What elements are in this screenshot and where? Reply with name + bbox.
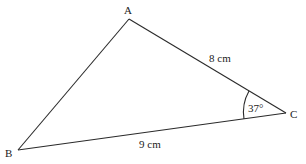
side-AC (129, 19, 286, 113)
vertex-label-A: A (124, 4, 132, 16)
vertex-label-B: B (5, 147, 12, 159)
angle-label-C: 37° (248, 102, 263, 114)
vertex-label-C: C (290, 108, 297, 120)
side-AB (18, 19, 129, 150)
side-label-BC: 9 cm (139, 138, 161, 150)
side-label-AC: 8 cm (209, 52, 231, 64)
triangle-diagram: A B C 8 cm 9 cm 37° (0, 0, 306, 164)
